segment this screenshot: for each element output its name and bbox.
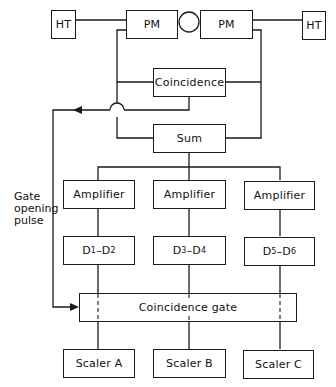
ht-left-block: HT <box>51 10 76 39</box>
pm-right-block: PM <box>200 10 253 39</box>
arrow-right-icon <box>70 303 79 311</box>
sample-circle <box>179 12 199 32</box>
discriminator-3-block: D5–D6 <box>244 237 315 266</box>
scaler-c-block: Scaler C <box>243 350 314 379</box>
coincidence-block: Coincidence <box>153 68 226 97</box>
scaler-a-block: Scaler A <box>63 349 135 378</box>
amplifier-2-block: Amplifier <box>153 180 226 209</box>
gate-opening-pulse-label: Gate opening pulse <box>14 191 58 227</box>
discriminator-1-block: D1–D2 <box>63 236 135 265</box>
ht-right-block: HT <box>302 11 326 40</box>
arrow-left-icon <box>73 106 82 114</box>
coincidence-gate-label: Coincidence gate <box>139 301 238 314</box>
discriminator-2-block: D3–D4 <box>153 236 226 265</box>
pm-left-block: PM <box>126 10 178 39</box>
amplifier-1-block: Amplifier <box>63 180 135 209</box>
sum-block: Sum <box>153 124 226 153</box>
coincidence-gate-block: Coincidence gate <box>79 293 297 322</box>
amplifier-3-block: Amplifier <box>244 181 315 210</box>
scaler-b-block: Scaler B <box>153 349 226 378</box>
